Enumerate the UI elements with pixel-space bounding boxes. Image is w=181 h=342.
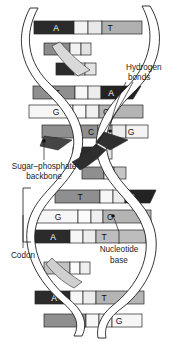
nucleotide-base-label-line2: base xyxy=(110,256,128,265)
base-letter: T xyxy=(101,293,106,303)
hydrogen-bonds-label-line1: Hydrogen xyxy=(126,63,162,72)
base-letter: G xyxy=(55,212,62,222)
base-letter: G xyxy=(116,316,123,326)
sugar-phosphate-label-line2: backbone xyxy=(26,172,62,181)
base-letter: G xyxy=(53,107,60,117)
hydrogen-bond-dot xyxy=(111,214,115,218)
base-letter: A xyxy=(108,88,114,98)
dna-double-helix-figure: A T xyxy=(0,0,181,342)
base-letter: G xyxy=(128,127,135,137)
base-pair-row: G C xyxy=(29,105,143,118)
nucleotide-base-label-line1: Nucleotide xyxy=(100,245,139,254)
base-letter: A xyxy=(53,23,59,33)
base-pair-row: A T xyxy=(32,230,146,243)
base-letter: T xyxy=(107,23,112,33)
codon-label: Codon xyxy=(11,251,36,260)
base-letter: A xyxy=(50,232,56,242)
hydrogen-bonds-label-line2: bonds xyxy=(128,73,150,82)
base-letter: T xyxy=(101,232,106,242)
backbone-dot xyxy=(42,139,46,143)
hydrogen-bond-dot xyxy=(108,129,112,133)
base-pair-row: G C xyxy=(36,210,151,223)
base-pair-row: C G xyxy=(44,314,142,327)
sugar-phosphate-label-line1: Sugar–phosphate xyxy=(12,162,77,171)
base-letter: C xyxy=(88,127,94,137)
sugar-phosphate-backbone-strand-b xyxy=(96,6,159,338)
base-pair-row: T A xyxy=(55,190,156,203)
base-letter: T xyxy=(77,192,82,202)
base-pair-row: A T xyxy=(34,21,142,34)
base-pair-row: C G xyxy=(42,125,148,138)
